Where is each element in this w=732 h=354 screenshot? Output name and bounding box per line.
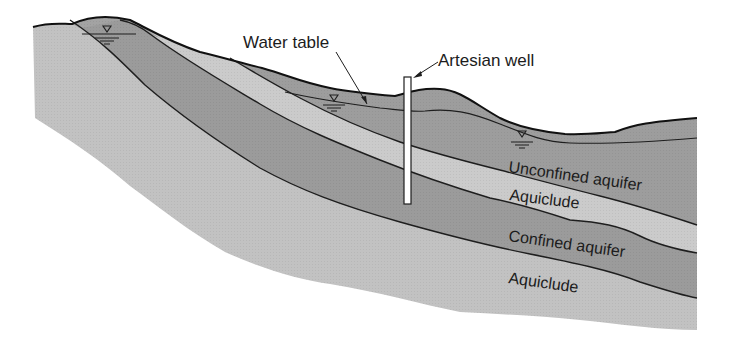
label-artesian-well: Artesian well: [438, 51, 534, 70]
artesian-well: [404, 77, 411, 204]
aquifer-cross-section-diagram: Water table Artesian well Unconfined aqu…: [0, 0, 732, 354]
label-water-table: Water table: [243, 33, 329, 52]
artesian-well-arrowhead: [413, 71, 422, 78]
